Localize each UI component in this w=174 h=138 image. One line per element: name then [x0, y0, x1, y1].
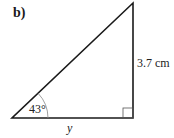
opposite-side-label: 3.7 cm: [137, 56, 170, 71]
angle-label: 43°: [29, 102, 46, 117]
right-angle-marker: [123, 108, 133, 118]
triangle-outline: [12, 3, 133, 118]
adjacent-side-label: y: [67, 121, 72, 136]
